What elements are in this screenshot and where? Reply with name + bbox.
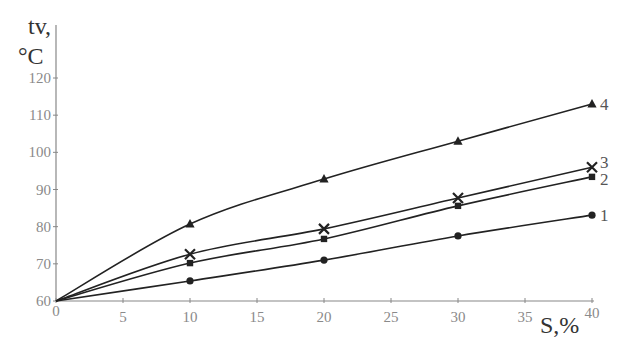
- x-tick-label: 35: [518, 309, 533, 325]
- circle-marker: [320, 257, 327, 264]
- x-tick-label: 20: [317, 309, 332, 325]
- series-label-4: 4: [600, 95, 609, 114]
- x-tick-label: 0: [52, 303, 60, 319]
- series-1: [56, 212, 596, 301]
- square-marker: [187, 260, 193, 266]
- series-group: [56, 99, 597, 301]
- series-line: [56, 167, 592, 301]
- series-2: [56, 174, 595, 301]
- x-tick-label: 40: [585, 305, 600, 321]
- y-tick-label: 80: [36, 219, 51, 235]
- axes: 051015202530354060708090100110120tv,°CS,…: [18, 13, 600, 338]
- x-tick-label: 10: [183, 309, 198, 325]
- triangle-marker: [587, 99, 596, 108]
- y-tick-label: 70: [36, 256, 51, 272]
- y-tick-label: 90: [36, 182, 51, 198]
- square-marker: [589, 174, 595, 180]
- series-3: [56, 162, 597, 301]
- x-tick-label: 5: [119, 309, 127, 325]
- circle-marker: [186, 277, 193, 284]
- line-chart: 051015202530354060708090100110120tv,°CS,…: [0, 0, 625, 364]
- y-tick-label: 100: [29, 144, 52, 160]
- y-tick-label: 60: [36, 293, 51, 309]
- series-label-3: 3: [600, 153, 609, 172]
- y-axis-unit: °C: [18, 43, 44, 69]
- x-tick-label: 15: [250, 309, 265, 325]
- x-tick-label: 30: [451, 309, 466, 325]
- y-tick-label: 110: [29, 107, 51, 123]
- labels-group: 1234: [600, 95, 609, 225]
- y-tick-label: 120: [29, 70, 52, 86]
- circle-marker: [588, 212, 595, 219]
- circle-marker: [454, 232, 461, 239]
- x-tick-label: 25: [384, 309, 399, 325]
- x-axis-title: S,%: [540, 312, 579, 338]
- square-marker: [455, 203, 461, 209]
- series-label-2: 2: [600, 170, 609, 189]
- y-axis-title: tv,: [28, 13, 51, 39]
- series-label-1: 1: [600, 206, 609, 225]
- x-marker: [185, 249, 195, 259]
- square-marker: [321, 236, 327, 242]
